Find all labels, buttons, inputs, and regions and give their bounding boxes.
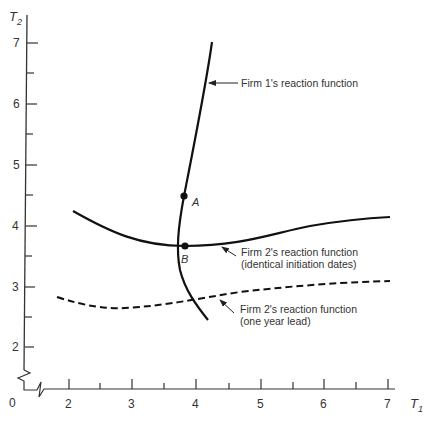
annotation-firm2-lead-line2: (one year lead) [240, 315, 311, 327]
x-tick-label-7: 7 [384, 397, 391, 411]
annotation-firm1: Firm 1's reaction function [209, 77, 358, 89]
x-tick-label-5: 5 [257, 397, 264, 411]
reaction-function-chart: 7 6 5 4 3 2 T2 0 2 3 4 5 6 7 T1 [0, 0, 429, 421]
point-a-label: A [191, 196, 199, 208]
x-axis-title: T1 [410, 396, 423, 414]
annotation-firm2-lead-line1: Firm 2's reaction function [240, 303, 357, 315]
x-axis: 0 2 3 4 5 6 7 T1 [9, 379, 423, 414]
y-axis: 7 6 5 4 3 2 T2 [9, 9, 38, 390]
point-b-label: B [181, 253, 188, 265]
y-tick-label-6: 6 [13, 97, 20, 111]
y-axis-break-icon [18, 370, 37, 390]
y-axis-title: T2 [9, 9, 22, 27]
arrow-up-left-icon [220, 300, 234, 313]
point-b-marker [181, 242, 188, 249]
point-a-marker [180, 192, 187, 199]
x-tick-label-3: 3 [128, 397, 135, 411]
firm2-reaction-curve-identical [73, 211, 390, 246]
annotation-firm2-identical-line2: (identical initiation dates) [241, 258, 357, 270]
y-tick-label-5: 5 [13, 158, 20, 172]
x-tick-label-2: 2 [65, 397, 72, 411]
y-tick-label-3: 3 [12, 280, 19, 294]
y-tick-label-2: 2 [12, 340, 19, 354]
y-tick-label-7: 7 [13, 36, 20, 50]
annotation-firm2-identical-line1: Firm 2's reaction function [241, 246, 358, 258]
arrow-up-left-icon [222, 247, 236, 256]
firm1-reaction-curve [178, 42, 212, 320]
y-tick-label-4: 4 [12, 219, 19, 233]
x-axis-break-icon [37, 382, 395, 397]
annotation-firm2-lead: Firm 2's reaction function (one year lea… [220, 300, 357, 327]
annotation-firm2-identical: Firm 2's reaction function (identical in… [222, 246, 358, 270]
annotation-firm1-text: Firm 1's reaction function [241, 77, 358, 89]
x-tick-label-6: 6 [320, 397, 327, 411]
origin-label: 0 [9, 396, 16, 410]
x-tick-label-4: 4 [192, 397, 199, 411]
